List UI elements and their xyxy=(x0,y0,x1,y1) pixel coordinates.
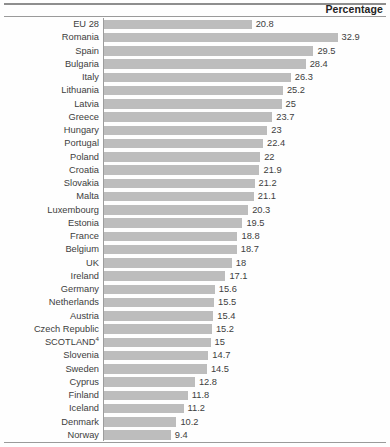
bar-value-label: 29.5 xyxy=(317,46,335,57)
category-label-netherlands: Netherlands xyxy=(49,297,99,308)
bar-value-label: 18.7 xyxy=(241,244,259,255)
category-label-denmark: Denmark xyxy=(61,417,99,428)
category-label-austria: Austria xyxy=(70,311,99,322)
bar xyxy=(104,165,259,175)
category-label-bulgaria: Bulgaria xyxy=(65,59,99,70)
bar xyxy=(104,324,212,334)
bar xyxy=(104,139,263,149)
bar xyxy=(104,364,207,374)
bottom-rule xyxy=(4,442,386,443)
category-label-norway: Norway xyxy=(67,430,99,441)
bar xyxy=(104,298,214,308)
bar-chart: Percentage EU 2820.8Romania32.9Spain29.5… xyxy=(0,0,390,447)
bar xyxy=(104,245,237,255)
bar-value-label: 25 xyxy=(286,99,296,110)
header-rule xyxy=(4,16,386,17)
bar xyxy=(104,46,313,56)
category-label-scotland: SCOTLAND4 xyxy=(45,337,99,348)
category-label-lithuania: Lithuania xyxy=(61,85,99,96)
bar xyxy=(104,391,188,401)
bar xyxy=(104,179,255,189)
category-label-iceland: Iceland xyxy=(69,403,99,414)
bar-value-label: 12.8 xyxy=(199,377,217,388)
category-label-poland: Poland xyxy=(70,152,99,163)
bar-value-label: 21.9 xyxy=(263,165,281,176)
bar xyxy=(104,205,248,215)
bar xyxy=(104,430,171,440)
bar xyxy=(104,59,306,69)
category-label-croatia: Croatia xyxy=(69,165,99,176)
bar-value-label: 15.5 xyxy=(218,297,236,308)
bar-value-label: 22 xyxy=(264,152,274,163)
category-label-latvia: Latvia xyxy=(74,99,99,110)
bar xyxy=(104,377,195,387)
bar-value-label: 15.6 xyxy=(219,284,237,295)
bar xyxy=(104,404,184,414)
bar-value-label: 14.7 xyxy=(212,350,230,361)
bar xyxy=(104,311,213,321)
bar-value-label: 21.1 xyxy=(258,191,276,202)
bar xyxy=(104,152,260,162)
category-label-sweden: Sweden xyxy=(65,364,99,375)
bar xyxy=(104,338,211,348)
bar xyxy=(104,33,338,43)
category-label-luxembourg: Luxembourg xyxy=(47,205,99,216)
category-label-romania: Romania xyxy=(62,32,99,43)
bar-value-label: 22.4 xyxy=(267,138,285,149)
bar xyxy=(104,218,242,228)
footnote-marker: 4 xyxy=(96,335,99,342)
category-label-belgium: Belgium xyxy=(65,244,99,255)
category-label-estonia: Estonia xyxy=(68,218,99,229)
category-label-uk: UK xyxy=(86,258,99,269)
category-label-malta: Malta xyxy=(76,191,99,202)
bar-value-label: 18.8 xyxy=(241,231,259,242)
bar xyxy=(104,232,237,242)
bar-value-label: 15 xyxy=(215,337,225,348)
bar-value-label: 19.5 xyxy=(246,218,264,229)
bar-value-label: 28.4 xyxy=(310,59,328,70)
bar-value-label: 20.8 xyxy=(256,19,274,30)
category-label-slovakia: Slovakia xyxy=(64,178,99,189)
category-label-italy: Italy xyxy=(82,72,99,83)
bar-value-label: 9.4 xyxy=(175,430,188,441)
bar-value-label: 20.3 xyxy=(252,205,270,216)
bar xyxy=(104,73,291,83)
category-label-finland: Finland xyxy=(69,390,100,401)
category-label-greece: Greece xyxy=(69,112,100,123)
bar xyxy=(104,112,272,122)
bar xyxy=(104,192,254,202)
bar xyxy=(104,351,208,361)
category-label-slovenia: Slovenia xyxy=(63,350,99,361)
bar-value-label: 23 xyxy=(271,125,281,136)
bar xyxy=(104,285,215,295)
bar-value-label: 10.2 xyxy=(180,417,198,428)
bar xyxy=(104,258,232,268)
bar-value-label: 11.8 xyxy=(192,390,209,401)
bar-value-label: 25.2 xyxy=(287,85,305,96)
bar xyxy=(104,126,267,136)
bar-value-label: 18 xyxy=(236,258,246,269)
bar xyxy=(104,20,252,30)
plot-area: EU 2820.8Romania32.9Spain29.5Bulgaria28.… xyxy=(0,18,390,442)
column-header-percentage: Percentage xyxy=(325,3,383,15)
bar-value-label: 17.1 xyxy=(229,271,247,282)
bar-value-label: 21.2 xyxy=(259,178,277,189)
bar xyxy=(104,86,283,96)
bar-value-label: 14.5 xyxy=(211,364,229,375)
bar-value-label: 32.9 xyxy=(342,32,360,43)
category-label-ireland: Ireland xyxy=(71,271,99,282)
category-label-hungary: Hungary xyxy=(64,125,99,136)
category-label-spain: Spain xyxy=(75,46,99,57)
bar xyxy=(104,99,282,109)
category-label-czech-republic: Czech Republic xyxy=(34,324,99,335)
bar xyxy=(104,271,225,281)
category-label-cyprus: Cyprus xyxy=(70,377,99,388)
chart-header: Percentage xyxy=(0,2,390,16)
bar-value-label: 23.7 xyxy=(276,112,294,123)
bar-value-label: 15.2 xyxy=(216,324,234,335)
category-label-france: France xyxy=(70,231,99,242)
category-label-portugal: Portugal xyxy=(64,138,99,149)
category-label-eu-28: EU 28 xyxy=(73,19,99,30)
bar-value-label: 26.3 xyxy=(295,72,313,83)
bar-value-label: 11.2 xyxy=(188,403,205,414)
